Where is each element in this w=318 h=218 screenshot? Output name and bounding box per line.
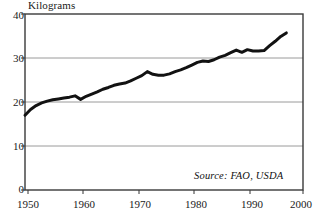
axis-ticks [21, 14, 303, 194]
chart-figure: Kilograms 40 30 20 10 0 1950 1960 1970 1… [0, 0, 318, 218]
data-series-line [25, 33, 286, 115]
plot-area [0, 0, 318, 218]
gridlines [25, 58, 303, 146]
